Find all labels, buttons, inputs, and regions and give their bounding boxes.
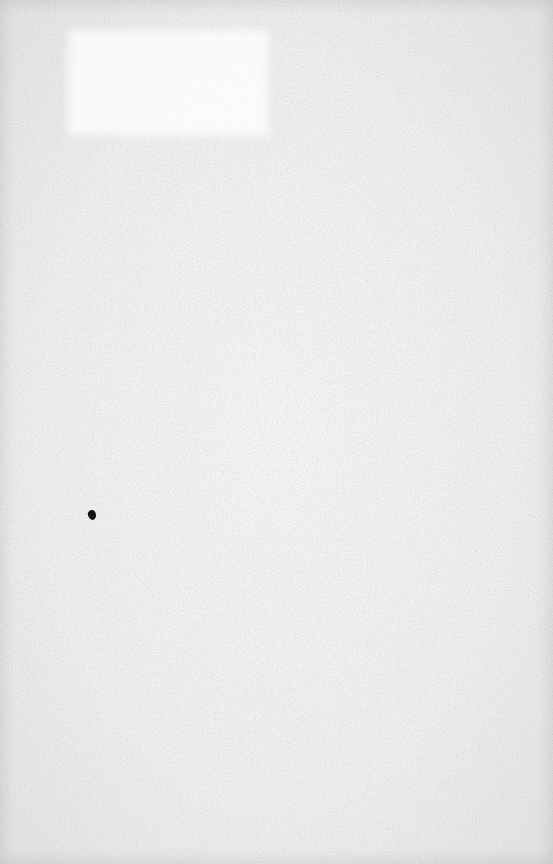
scanned-page	[0, 0, 553, 864]
bright-patch	[68, 30, 268, 135]
